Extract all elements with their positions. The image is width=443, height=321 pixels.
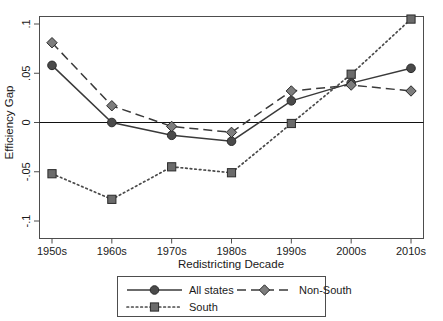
data-point-marker: [107, 101, 117, 111]
series-south: [48, 15, 415, 203]
x-tick-label: 1980s: [217, 245, 247, 257]
data-point-marker: [48, 61, 57, 70]
data-point-marker: [48, 170, 56, 178]
x-tick-label: 1960s: [97, 245, 127, 257]
data-point-marker: [406, 86, 416, 96]
x-tick-label: 1950s: [37, 245, 67, 257]
data-point-marker: [286, 86, 296, 96]
legend-label: Non-South: [299, 284, 352, 296]
y-tick-label: 0: [20, 119, 32, 125]
data-point-marker: [226, 127, 236, 137]
data-point-marker: [347, 70, 355, 78]
x-tick-label: 2000s: [336, 245, 366, 257]
legend-label: South: [189, 301, 218, 313]
x-tick-label: 1990s: [276, 245, 306, 257]
data-point-marker: [407, 15, 415, 23]
y-tick-label: .05: [20, 66, 32, 81]
x-tick-label: 1970s: [157, 245, 187, 257]
data-point-marker: [287, 97, 296, 106]
data-point-marker: [150, 286, 159, 295]
data-point-marker: [407, 64, 416, 73]
x-axis-ticks: [52, 239, 411, 244]
data-point-marker: [108, 118, 117, 127]
legend-box: [118, 277, 326, 317]
y-tick-label: .1: [20, 19, 32, 28]
efficiency-gap-chart: .1 .05 0 -.05 -.1 Efficiency Gap 1950s19…: [0, 0, 443, 321]
data-point-marker: [168, 163, 176, 171]
y-axis-title: Efficiency Gap: [3, 86, 15, 160]
y-axis-tick-labels: .1 .05 0 -.05 -.1: [20, 19, 32, 227]
data-point-marker: [287, 119, 295, 127]
chart-canvas: .1 .05 0 -.05 -.1 Efficiency Gap 1950s19…: [0, 0, 443, 321]
data-point-marker: [108, 195, 116, 203]
x-axis-tick-labels: 1950s1960s1970s1980s1990s2000s2010s: [37, 245, 426, 257]
x-tick-label: 2010s: [396, 245, 426, 257]
legend: All statesNon-SouthSouth: [118, 277, 352, 317]
x-axis-title: Redistricting Decade: [178, 258, 284, 270]
data-point-marker: [150, 303, 158, 311]
y-axis-ticks: [34, 24, 40, 221]
y-tick-label: -.05: [20, 162, 32, 181]
legend-label: All states: [189, 284, 234, 296]
data-point-marker: [227, 169, 235, 177]
data-series-layer: [47, 15, 416, 203]
series-line: [52, 43, 411, 133]
y-tick-label: -.1: [20, 215, 32, 228]
